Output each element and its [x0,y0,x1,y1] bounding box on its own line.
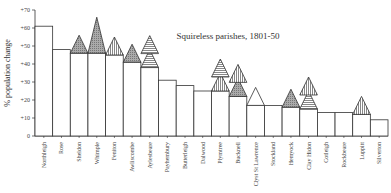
y-tick-label: +70 [21,7,30,13]
bar [317,113,335,136]
triangle-marker-vertical [106,37,124,55]
x-category-label: Dalwood [200,142,206,164]
x-category-label: Plymtree [217,142,223,164]
bar [212,91,230,136]
bar [176,86,194,136]
x-category-label: Butterleigh [182,142,188,169]
x-category-label: Hemyock [288,142,294,165]
x-category-label: Feniton [111,142,117,160]
bar [353,114,371,136]
bar [35,26,53,136]
x-category-label: Payhembury [164,142,170,172]
x-category-label: Bucknell [235,142,241,164]
population-change-chart: Squireless parishes, 1801-50 0+10+20+30+… [0,0,391,193]
y-tick-label: +30 [21,79,30,85]
bar [141,68,159,136]
bar [70,53,88,136]
triangle-marker-vertical [229,64,247,82]
bar [88,53,106,136]
y-axis-label: % population change [3,39,12,107]
bars [35,26,388,138]
x-category-label: Awliscombe [129,142,135,172]
triangle-marker-horizontal [141,36,159,54]
bar [300,109,318,136]
chart-title: Squireless parishes, 1801-50 [176,31,280,41]
x-category-label: Aylesbeare [147,142,153,169]
triangle-marker-dotted-large [88,17,106,53]
y-tick-label: +60 [21,25,30,31]
bar [106,55,124,136]
x-category-label: Stockland [270,142,276,166]
bar [264,105,282,136]
bar [335,113,353,136]
x-category-label: Cotleigh [323,142,329,163]
x-category-label: Northleigh [41,142,47,168]
triangle-marker-horizontal [212,59,230,77]
bar [53,50,71,136]
y-tick-label: +10 [21,115,30,121]
bar [370,120,388,136]
bar [282,107,300,136]
y-tick-label: +40 [21,61,30,67]
x-category-label: Sheldon [76,142,82,162]
y-tick-label: +50 [21,43,30,49]
triangle-marker-dotted [70,35,88,53]
bar [159,80,177,136]
bar [229,96,247,136]
bar [194,91,212,136]
x-category-label: Rose [58,142,64,154]
triangle-marker-plain [247,87,265,105]
x-category-label: Luppitt [359,142,365,160]
x-category-label: Clay Hidon [306,142,312,170]
x-category-label: Rockbeare [341,142,347,168]
x-axis-labels: NorthleighRoseSheldonWhimpleFenitonAwlis… [41,142,382,187]
y-tick-label: +20 [21,97,30,103]
chart-title-text: Squireless parishes, 1801-50 [176,31,280,41]
x-category-label: Silverton [376,142,382,164]
triangle-marker-vertical [353,96,371,114]
bar [123,62,141,136]
x-category-label: Clyst St Lawrence [253,142,259,187]
triangle-marker-dotted [123,44,141,62]
triangle-marker-vertical [300,77,318,95]
y-tick-label: 0 [27,133,30,139]
x-category-label: Whimple [94,142,100,165]
triangle-marker-dotted [282,89,300,107]
bar [247,105,265,136]
